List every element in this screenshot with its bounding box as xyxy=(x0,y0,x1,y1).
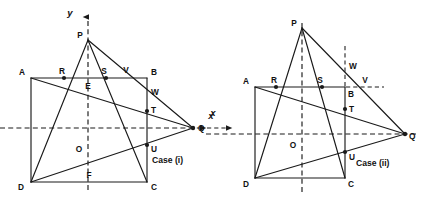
case-ii-point-U-dot xyxy=(343,150,347,154)
case-ii-label-T: T xyxy=(349,104,354,114)
case-ii-label-O: O xyxy=(290,140,297,150)
case-ii-point-Q-dot xyxy=(403,132,407,136)
case-ii-label-U: U xyxy=(349,152,355,162)
case-ii-label-P: P xyxy=(291,18,297,28)
case-ii-point-T-dot xyxy=(343,107,347,111)
case-i-label-F: F xyxy=(86,170,91,180)
case-ii-label-R: R xyxy=(271,75,277,85)
case-i-labels: A B C D P Q R S V E W T U F O xyxy=(18,30,205,192)
case-ii-label-A: A xyxy=(243,76,249,86)
case-i-label-B: B xyxy=(151,67,157,77)
case-i-point-R-dot xyxy=(62,76,66,80)
case-i-label-P: P xyxy=(77,30,83,40)
case-ii-label-D: D xyxy=(243,179,249,189)
case-ii-label-V: V xyxy=(362,75,368,85)
case-ii-label-C: C xyxy=(348,179,354,189)
case-i-y-axis-label: y xyxy=(66,7,73,18)
geometry-figure: A B C D P Q R S V E W T U F O y x Case (… xyxy=(0,0,423,200)
case-ii-edge-DQ xyxy=(255,134,405,178)
diagram-canvas: A B C D P Q R S V E W T U F O y x Case (… xyxy=(0,0,423,200)
case-i-label-V: V xyxy=(123,65,129,75)
case-ii-point-S-dot xyxy=(320,85,324,89)
case-i-label-O: O xyxy=(76,144,83,154)
case-ii-label-W: W xyxy=(349,61,357,71)
case-ii-labels: A B C D P Q R S W V T U O xyxy=(243,18,416,189)
case-i-point-S-dot xyxy=(104,76,108,80)
case-i-label-Q: Q xyxy=(198,123,205,133)
case-ii-x-axis-label: x xyxy=(209,107,216,118)
case-i-label-R: R xyxy=(59,66,65,76)
case-i-label-S: S xyxy=(101,66,107,76)
case-ii-label-Q: Q xyxy=(409,131,416,141)
case-ii-edge-PD xyxy=(255,28,302,178)
case-i-point-Q-dot xyxy=(191,126,195,130)
case-i-edge-PQ xyxy=(88,40,193,128)
case-ii-point-R-dot xyxy=(274,85,278,89)
case-i-edge-PD xyxy=(31,40,88,182)
case-i-label-W: W xyxy=(151,87,159,97)
case-i-point-T-dot xyxy=(145,109,149,113)
case-i-label-C: C xyxy=(151,182,157,192)
case-ii-label-B: B xyxy=(348,89,354,99)
case-i-label-T: T xyxy=(151,105,156,115)
case-ii-label-S: S xyxy=(317,75,323,85)
case-i-caption: Case (i) xyxy=(152,155,183,165)
case-ii-segments xyxy=(255,28,405,178)
case-i-label-E: E xyxy=(85,81,91,91)
case-i-label-U: U xyxy=(151,144,157,154)
case-i-label-A: A xyxy=(19,67,25,77)
case-i-point-U-dot xyxy=(145,143,149,147)
case-ii-caption: Case (ii) xyxy=(356,158,390,168)
case-i-label-D: D xyxy=(18,182,24,192)
